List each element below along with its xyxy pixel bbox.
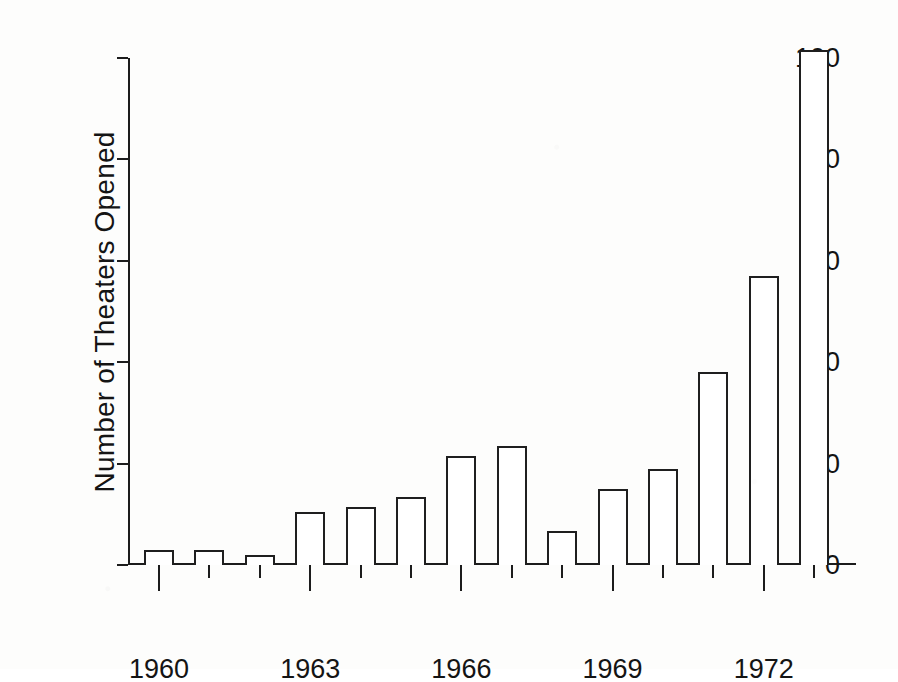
bar (799, 50, 829, 565)
x-axis-tick-minor (712, 565, 714, 578)
x-axis-tick-major (460, 565, 462, 591)
y-axis-tick (117, 260, 128, 262)
x-axis-tick-minor (813, 565, 815, 578)
x-axis-tick-minor (208, 565, 210, 578)
x-axis-tick-label: 1966 (431, 654, 491, 682)
bar (446, 456, 476, 565)
x-axis-tick-major (309, 565, 311, 591)
x-axis-tick-label: 1963 (280, 654, 340, 682)
x-axis-tick-minor (410, 565, 412, 578)
x-axis-tick-major (158, 565, 160, 591)
x-axis-line (128, 563, 856, 565)
bar (598, 489, 628, 565)
x-axis-tick-label: 1972 (734, 654, 794, 682)
x-axis-tick-minor (662, 565, 664, 578)
y-axis-tick (117, 564, 128, 566)
bar (245, 555, 275, 565)
x-axis-tick-major (763, 565, 765, 591)
y-axis-line (128, 58, 130, 565)
bar (749, 276, 779, 565)
x-axis-tick-minor (259, 565, 261, 578)
bar (396, 497, 426, 565)
plot-area: 020406080100 19601963196619691972 (128, 58, 856, 565)
bar (648, 469, 678, 565)
x-axis-tick-minor (360, 565, 362, 578)
bar (295, 512, 325, 565)
bar (346, 507, 376, 565)
x-axis-tick-label: 1969 (583, 654, 643, 682)
x-axis-tick-major (612, 565, 614, 591)
y-axis-title: Number of Theaters Opened (89, 52, 121, 572)
x-axis-tick-label: 1960 (129, 654, 189, 682)
y-axis-tick (117, 57, 128, 59)
x-axis-tick-minor (511, 565, 513, 578)
bar (144, 550, 174, 565)
bar (497, 446, 527, 565)
y-axis-tick (117, 158, 128, 160)
bar (698, 372, 728, 565)
bar (194, 550, 224, 565)
bar (547, 531, 577, 565)
y-axis-tick (117, 361, 128, 363)
x-axis-tick-minor (561, 565, 563, 578)
y-axis-tick (117, 463, 128, 465)
